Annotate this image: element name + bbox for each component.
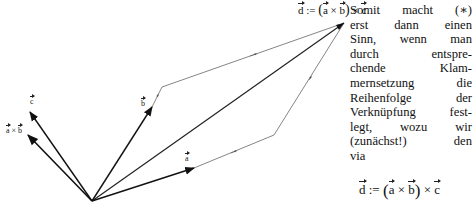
hf-a: a — [323, 4, 328, 16]
paragraph-line: Sinn, wenn man — [350, 32, 472, 47]
df-d: d — [359, 182, 366, 198]
hf-assign: := — [304, 4, 319, 16]
df-assign: := — [366, 182, 383, 197]
df-c: c — [434, 182, 440, 198]
vector-c-arrow — [30, 112, 92, 201]
mid-arrow-left — [157, 95, 158, 97]
paragraph-line: mernsetzung die — [350, 76, 472, 91]
paragraph-line: chende Klam- — [350, 61, 472, 76]
mid-arrow-upper — [250, 54, 256, 56]
paragraph-line: Somit macht (∗) — [350, 3, 472, 18]
paragraph-line: (zunächst!) den — [350, 134, 472, 149]
label-a-text: a — [185, 154, 189, 163]
hf-b: b — [340, 4, 346, 16]
label-b: b — [141, 99, 145, 108]
paragraph-line: via — [350, 149, 472, 164]
vector-d-line — [92, 23, 344, 201]
df-times1: × — [394, 182, 408, 197]
df-b: b — [408, 182, 415, 198]
label-a: a — [185, 154, 189, 163]
paragraph-line: Reihenfolge der — [350, 91, 472, 106]
label-a-cross-b-a: a — [6, 126, 10, 135]
hf-times1: × — [328, 4, 340, 16]
label-b-text: b — [141, 99, 145, 108]
vector-a-arrow — [92, 168, 194, 201]
label-a-cross-b-op: × — [10, 126, 19, 135]
paragraph-line: durch entspre- — [350, 47, 472, 62]
label-c: c — [30, 97, 34, 106]
df-a: a — [389, 182, 395, 198]
paragraph-line: legt, wozu wir — [350, 120, 472, 135]
label-a-cross-b-b: b — [18, 126, 22, 135]
paragraph-line: erst dann einen — [350, 18, 472, 33]
body-paragraph: Somit macht (∗) erst dann einen Sinn, we… — [350, 3, 472, 164]
construction-lines — [152, 23, 344, 168]
display-formula: d := (a × b) × c — [359, 181, 440, 201]
vector-a-cross-b-arrow — [28, 135, 92, 201]
vector-b-arrow — [92, 107, 152, 201]
label-a-cross-b: a × b — [6, 126, 22, 135]
hf-d: d — [298, 4, 304, 16]
label-c-text: c — [30, 97, 34, 106]
paragraph-line: Verknüpfung fest- — [350, 105, 472, 120]
right-edge-line — [274, 23, 344, 135]
df-times2: × — [420, 182, 434, 197]
